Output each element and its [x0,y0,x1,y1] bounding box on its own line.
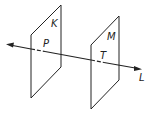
line-l-hidden-k [31,49,45,52]
line-l-right [104,63,138,69]
arrowhead-right-icon [134,66,142,71]
plane-k-label: K [51,18,59,29]
plane-m-label: M [107,31,116,42]
line-l-label: L [139,72,145,83]
arrowhead-left-icon [6,43,14,48]
line-l-middle [45,52,91,61]
diagram-canvas: K P M T L [0,0,148,113]
point-p-label: P [43,38,50,49]
point-t-label: T [100,50,107,61]
